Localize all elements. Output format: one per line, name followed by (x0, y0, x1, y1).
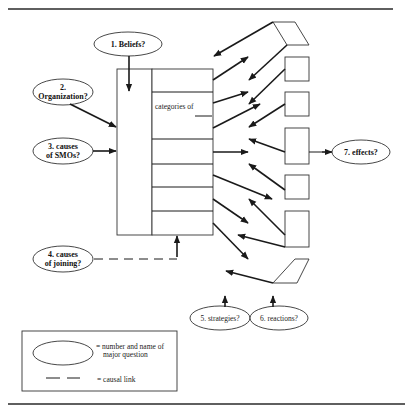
outcome-box-5 (285, 211, 309, 247)
question-2-arrow (70, 104, 116, 127)
question-3-label: of SMOs? (46, 151, 80, 160)
question-7-label: 7. effects? (344, 148, 378, 157)
legend-dash-desc: = causal link (97, 375, 136, 384)
categories-label: categories of (155, 102, 194, 111)
smo-diagram: categories of 1. Beliefs? 2. Organizatio… (0, 0, 407, 413)
question-2-label: Organization? (38, 92, 87, 101)
legend-ellipse-desc-line2: major question (103, 350, 148, 359)
question-3-number: 3. causes (48, 142, 78, 151)
question-5-label: 5. strategies? (200, 314, 240, 323)
organization-categories-column (152, 69, 213, 235)
question-4-number: 4. causes (48, 250, 78, 259)
outcome-box-3 (285, 128, 309, 164)
legend-ellipse-sample (33, 341, 93, 365)
question-4-label: of joining? (45, 259, 82, 268)
outcome-box-2 (285, 92, 309, 116)
outcome-box-4 (285, 175, 309, 199)
outcome-box-1 (285, 57, 309, 81)
outcome-parallelogram-top (273, 22, 309, 45)
question-2-number: 2. (60, 83, 66, 92)
outcome-parallelogram-bottom (273, 259, 309, 283)
organization-left-column (117, 69, 152, 235)
outgoing-arrows (213, 57, 272, 259)
question-6-label: 6. reactions? (260, 314, 299, 323)
question-1-label: 1. Beliefs? (111, 40, 146, 49)
